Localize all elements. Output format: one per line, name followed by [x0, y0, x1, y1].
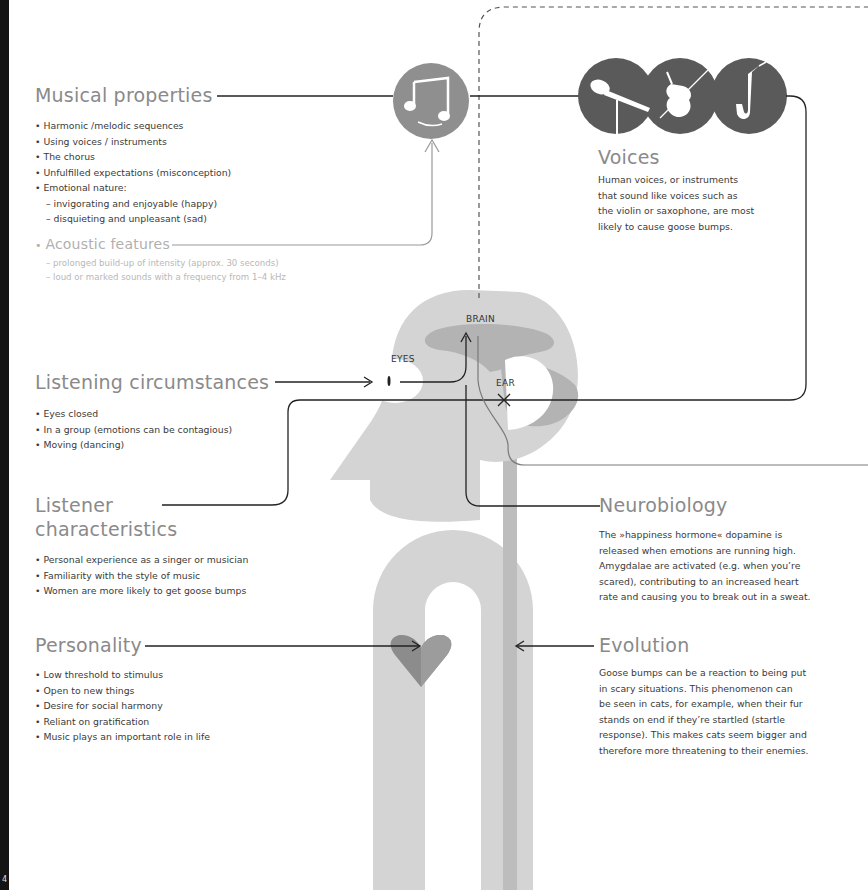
ear-label: EAR	[496, 378, 515, 388]
list-item: Moving (dancing)	[35, 437, 232, 453]
acoustic-features-title-text: Acoustic features	[45, 236, 170, 252]
personality-list: Low threshold to stimulus Open to new th…	[35, 667, 210, 745]
list-item: Harmonic /melodic sequences	[35, 118, 231, 134]
evolution-title: Evolution	[599, 634, 689, 656]
instrument-icons	[578, 58, 787, 134]
music-note-icon	[393, 63, 469, 139]
list-item: Open to new things	[35, 683, 210, 699]
personality-title: Personality	[35, 634, 142, 656]
list-item: loud or marked sounds with a frequency f…	[46, 270, 286, 284]
list-item: Unfulfilled expectations (misconception)	[35, 165, 231, 181]
list-item: disquieting and unpleasant (sad)	[35, 211, 231, 227]
listening-circumstances-list: Eyes closed In a group (emotions can be …	[35, 406, 232, 453]
list-item: Eyes closed	[35, 406, 232, 422]
eyes-label: EYES	[391, 354, 415, 364]
list-item: prolonged build-up of intensity (approx.…	[46, 256, 286, 270]
list-item: Music plays an important role in life	[35, 729, 210, 745]
list-item: Using voices / instruments	[35, 134, 231, 150]
list-item: Familiarity with the style of music	[35, 568, 248, 584]
listener-characteristics-title-line1: Listener	[35, 494, 113, 516]
acoustic-features-title: • Acoustic features	[35, 236, 170, 252]
musical-properties-list: Harmonic /melodic sequences Using voices…	[35, 118, 231, 227]
voices-text: Human voices, or instruments that sound …	[598, 172, 754, 234]
head-silhouette	[330, 290, 578, 522]
dashed-frame	[479, 7, 868, 298]
evolution-text: Goose bumps can be a reaction to being p…	[599, 665, 808, 759]
acoustic-features-list: prolonged build-up of intensity (approx.…	[46, 256, 286, 284]
list-item: Reliant on gratification	[35, 714, 210, 730]
list-item: In a group (emotions can be contagious)	[35, 422, 232, 438]
brain-label: BRAIN	[466, 314, 495, 324]
neurobiology-text: The »happiness hormone« dopamine is rele…	[599, 527, 811, 605]
list-item: invigorating and enjoyable (happy)	[35, 196, 231, 212]
neurobiology-title: Neurobiology	[599, 494, 728, 516]
list-item: Desire for social harmony	[35, 698, 210, 714]
list-item: Low threshold to stimulus	[35, 667, 210, 683]
musical-properties-title: Musical properties	[35, 84, 213, 106]
list-item: Personal experience as a singer or music…	[35, 552, 248, 568]
listener-characteristics-title-line2: characteristics	[35, 518, 177, 540]
list-item: Emotional nature:	[35, 180, 231, 196]
voices-title: Voices	[598, 146, 660, 168]
list-item: The chorus	[35, 149, 231, 165]
list-item: Women are more likely to get goose bumps	[35, 583, 248, 599]
listening-circumstances-title: Listening circumstances	[35, 371, 269, 393]
listener-characteristics-list: Personal experience as a singer or music…	[35, 552, 248, 599]
